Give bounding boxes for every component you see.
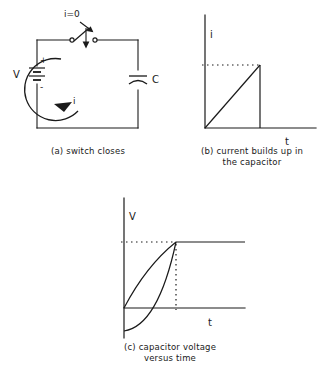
caption-panel-b: (b) current builds up in the capacitor	[182, 146, 322, 168]
switch-label: i=0	[64, 9, 80, 19]
panel-a-circuit: V + - C i=0	[0, 0, 176, 190]
switch-close-arrow	[80, 22, 93, 49]
current-loop-arrow	[25, 59, 78, 121]
x-axis-label: t	[208, 317, 212, 328]
panel-b-current-plot: i t (b) current builds up in the capacit…	[176, 0, 326, 190]
figure-rc-circuit: V + - C i=0	[0, 0, 326, 381]
current-ramp-segment	[205, 65, 260, 128]
charging-curve-trace	[124, 242, 176, 331]
y-axis-label: V	[129, 211, 136, 222]
capacitor-label: C	[152, 74, 159, 85]
source-minus-sign: -	[40, 82, 43, 92]
source-label: V	[13, 69, 20, 80]
caption-panel-a: (a) switch closes	[0, 146, 176, 157]
chord-trace	[124, 242, 176, 308]
current-arrowhead	[54, 102, 72, 112]
circuit-wires	[37, 40, 138, 128]
chart-axes	[124, 198, 245, 338]
caption-panel-c: (c) capacitor voltage versus time	[60, 342, 280, 364]
panel-c-voltage-plot: V t (c) capacitor voltage versus time	[60, 190, 280, 381]
circuit-schematic: V + - C i=0	[0, 0, 176, 190]
switch-symbol	[70, 28, 97, 42]
switch-blade	[74, 28, 89, 41]
capacitor-symbol	[129, 76, 147, 84]
current-trace	[205, 65, 260, 128]
y-axis-label: i	[210, 29, 213, 40]
current-label: i	[73, 96, 76, 106]
